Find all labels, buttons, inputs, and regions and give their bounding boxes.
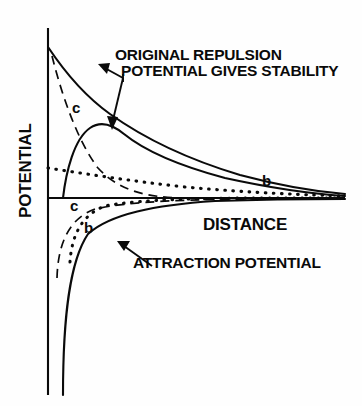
curve-tag-c-lower: c [70,198,78,213]
callout-attraction-potential: ATTRACTION POTENTIAL [133,255,321,271]
callout-repulsion-line2: POTENTIAL GIVES STABILITY [121,63,338,79]
x-axis-title: DISTANCE [203,216,287,233]
y-axis-title-text: POTENTIAL [17,113,34,229]
y-axis-title: POTENTIAL [6,112,46,232]
potential-energy-diagram: POTENTIAL DISTANCE ORIGINAL REPULSION PO… [0,0,362,406]
repulsion-lower-arrow-shaft [113,78,123,120]
callout-original-repulsion: ORIGINAL REPULSION POTENTIAL GIVES STABI… [115,47,338,80]
curve-tag-c-upper: c [72,100,80,115]
curve-tag-b-lower: b [84,220,93,235]
curve-total-potential-stability [63,124,345,198]
curve-tag-b-upper: b [262,173,271,188]
callout-repulsion-line1: ORIGINAL REPULSION [115,47,338,63]
repulsion-upper-arrow-head [98,63,110,74]
